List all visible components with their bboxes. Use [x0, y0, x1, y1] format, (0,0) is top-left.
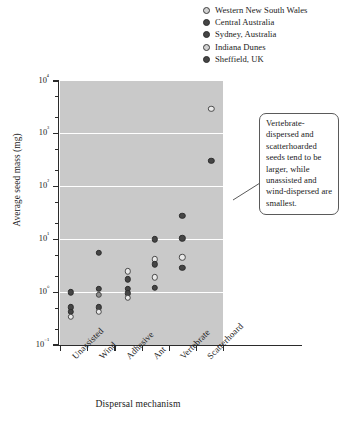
legend-item: Central Australia [203, 16, 344, 28]
y-axis-minor-tick [55, 96, 59, 97]
legend-item-label: Sheffield, UK [215, 55, 264, 64]
y-axis-line [58, 80, 59, 346]
y-axis-minor-tick [55, 308, 59, 309]
legend-item: Sheffield, UK [203, 54, 344, 66]
legend-item-label: Sydney, Australia [215, 30, 276, 39]
data-point [152, 236, 158, 242]
gridline [60, 133, 223, 134]
gridline [60, 186, 223, 187]
y-axis-tick [53, 80, 59, 81]
x-axis-line [58, 345, 302, 346]
legend-item: Western New South Wales [203, 4, 344, 16]
chart-legend: Western New South WalesCentral Australia… [203, 4, 344, 66]
x-axis-tick [142, 346, 143, 351]
legend-marker-icon [203, 56, 210, 63]
legend-item: Indiana Dunes [203, 41, 344, 53]
data-point [179, 213, 185, 219]
data-point [67, 314, 73, 320]
x-axis-tick [196, 346, 197, 351]
y-axis-tick [53, 292, 59, 293]
data-point [179, 235, 185, 241]
x-axis-tick [223, 346, 224, 351]
x-axis-category-label: Ant [151, 344, 168, 361]
data-point [96, 250, 102, 256]
y-axis-tick-label: 10¹ [0, 234, 52, 243]
legend-item: Sydney, Australia [203, 29, 344, 41]
y-axis-tick-label: 10⁻¹ [0, 340, 52, 349]
legend-marker-icon [203, 7, 210, 14]
y-axis-tick [53, 344, 59, 345]
x-axis-tick [60, 346, 61, 351]
gridline [60, 239, 223, 240]
legend-marker-icon [203, 19, 210, 26]
y-axis-tick [53, 239, 59, 240]
y-axis-labels: 10⁴10³10²10¹10⁰10⁻¹ [0, 0, 52, 427]
data-point [152, 261, 158, 267]
y-axis-minor-tick [55, 223, 59, 224]
data-point [125, 276, 131, 282]
y-axis-minor-tick [55, 276, 59, 277]
y-axis-minor-tick [55, 149, 59, 150]
y-axis-tick [53, 133, 59, 134]
annotation-callout: Vertebrate-dispersed and scatterhoarded … [259, 113, 339, 215]
legend-item-label: Indiana Dunes [215, 43, 266, 52]
chart-figure: Western New South WalesCentral Australia… [0, 0, 344, 427]
data-point [208, 157, 214, 163]
data-point [152, 274, 158, 280]
annotation-leader-line [232, 181, 261, 201]
data-point [179, 254, 185, 260]
data-point [125, 268, 131, 274]
y-axis-tick-label: 10³ [0, 128, 52, 137]
plot-area [60, 81, 223, 345]
y-axis-tick [53, 186, 59, 187]
legend-item-label: Central Australia [215, 18, 274, 27]
y-axis-tick-label: 10² [0, 181, 52, 190]
y-axis-minor-tick [55, 170, 59, 171]
data-point [152, 285, 158, 291]
data-point [96, 309, 102, 315]
data-point [208, 105, 214, 111]
y-axis-minor-tick [55, 255, 59, 256]
y-axis-tick-label: 10⁰ [0, 287, 52, 296]
data-point [67, 289, 73, 295]
y-axis-minor-tick [55, 329, 59, 330]
data-point [179, 265, 185, 271]
legend-marker-icon [203, 31, 210, 38]
legend-marker-icon [203, 44, 210, 51]
y-axis-minor-tick [55, 117, 59, 118]
y-axis-tick-label: 10⁴ [0, 76, 52, 85]
data-point [125, 295, 131, 301]
x-axis-tick [169, 346, 170, 351]
x-axis-title: Dispersal mechanism [0, 398, 276, 409]
gridline [60, 292, 223, 293]
legend-item-label: Western New South Wales [215, 6, 307, 15]
data-point [96, 291, 102, 297]
y-axis-title: Average seed mass (mg) [12, 105, 22, 255]
x-axis-tick [87, 346, 88, 351]
x-axis-tick [114, 346, 115, 351]
y-axis-minor-tick [55, 202, 59, 203]
